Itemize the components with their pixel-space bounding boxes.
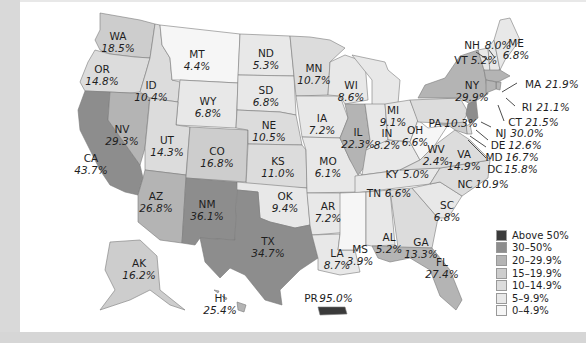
state-RI[interactable]	[496, 82, 501, 90]
svg-text:27.4%: 27.4%	[425, 268, 458, 280]
label-MA: MA21.9%	[525, 78, 579, 90]
svg-text:MT: MT	[189, 48, 205, 60]
svg-text:KS: KS	[271, 155, 285, 167]
label-NJ: NJ30.0%	[496, 127, 544, 139]
svg-text:OR: OR	[94, 63, 110, 75]
svg-text:6.8%: 6.8%	[195, 107, 222, 119]
svg-text:14.8%: 14.8%	[85, 75, 118, 87]
svg-text:GA: GA	[413, 236, 429, 248]
label-RI: RI21.1%	[522, 101, 570, 113]
svg-text:NE: NE	[262, 119, 277, 131]
svg-text:MA: MA	[525, 78, 542, 90]
svg-text:NM: NM	[199, 198, 216, 210]
svg-text:29.9%: 29.9%	[455, 91, 488, 103]
label-HI: HI25.4%	[203, 292, 236, 316]
svg-text:5.2%: 5.2%	[471, 54, 498, 66]
svg-text:ME: ME	[508, 37, 524, 49]
svg-text:NY: NY	[465, 79, 480, 91]
svg-text:8.6%: 8.6%	[338, 91, 365, 103]
legend-swatch	[496, 268, 507, 279]
svg-text:29.3%: 29.3%	[105, 135, 138, 147]
svg-text:30.0%: 30.0%	[510, 127, 543, 139]
svg-text:MO: MO	[319, 155, 336, 167]
legend-label: 30–50%	[512, 242, 552, 253]
svg-text:MN: MN	[306, 62, 323, 74]
svg-text:10.9%: 10.9%	[475, 178, 508, 190]
svg-text:OH: OH	[407, 124, 423, 136]
svg-text:WV: WV	[427, 143, 445, 155]
svg-text:6.8%: 6.8%	[253, 96, 280, 108]
svg-text:FL: FL	[436, 256, 448, 268]
svg-text:43.7%: 43.7%	[74, 164, 107, 176]
legend-item-5-9: 5–9.9%	[496, 292, 569, 305]
legend-label: 15–19.9%	[512, 268, 562, 279]
svg-text:DC: DC	[487, 163, 502, 175]
svg-text:NH: NH	[464, 39, 480, 51]
svg-text:15.8%: 15.8%	[504, 163, 537, 175]
svg-text:VA: VA	[457, 148, 472, 160]
svg-text:AR: AR	[321, 200, 335, 212]
legend-item-0-4: 0–4.9%	[496, 305, 569, 318]
label-MD: MD16.7%	[485, 151, 538, 163]
legend-swatch	[496, 230, 507, 241]
svg-text:DE: DE	[491, 139, 506, 151]
legend-label: 10–14.9%	[512, 280, 562, 291]
svg-text:AL: AL	[382, 231, 395, 243]
svg-text:6.6%: 6.6%	[402, 136, 429, 148]
svg-text:36.1%: 36.1%	[190, 210, 223, 222]
svg-text:RI: RI	[522, 101, 532, 113]
legend-item-10-14: 10–14.9%	[496, 279, 569, 292]
svg-text:SC: SC	[440, 199, 454, 211]
svg-text:5.0%: 5.0%	[403, 168, 430, 180]
svg-text:13.3%: 13.3%	[404, 248, 437, 260]
svg-text:MS: MS	[352, 243, 368, 255]
svg-text:26.8%: 26.8%	[139, 202, 172, 214]
legend: Above 50% 30–50% 20–29.9% 15–19.9% 10–14…	[496, 229, 569, 317]
svg-text:TX: TX	[260, 235, 275, 247]
svg-text:NV: NV	[114, 123, 130, 135]
svg-text:OK: OK	[277, 190, 293, 202]
legend-swatch	[496, 293, 507, 304]
svg-text:IN: IN	[382, 127, 393, 139]
svg-text:16.7%: 16.7%	[505, 151, 538, 163]
svg-text:10.7%: 10.7%	[297, 74, 330, 86]
label-NC: NC10.9%	[457, 178, 508, 190]
svg-text:21.9%: 21.9%	[545, 78, 578, 90]
svg-text:7.2%: 7.2%	[315, 212, 342, 224]
svg-text:CA: CA	[84, 152, 99, 164]
svg-text:UT: UT	[160, 134, 175, 146]
svg-text:10.5%: 10.5%	[252, 131, 285, 143]
legend-item-30-50: 30–50%	[496, 242, 569, 255]
svg-text:16.2%: 16.2%	[122, 269, 155, 281]
svg-text:6.6%: 6.6%	[385, 187, 412, 199]
legend-swatch	[496, 305, 507, 316]
svg-text:NC: NC	[457, 178, 472, 190]
svg-text:3.9%: 3.9%	[347, 255, 374, 267]
svg-text:14.9%: 14.9%	[447, 160, 480, 172]
legend-item-above-50: Above 50%	[496, 229, 569, 242]
svg-text:21.1%: 21.1%	[536, 101, 569, 113]
label-DE: DE12.6%	[491, 139, 542, 151]
svg-text:11.0%: 11.0%	[261, 167, 294, 179]
legend-label: Above 50%	[512, 230, 569, 241]
svg-text:VT: VT	[454, 54, 468, 66]
legend-item-20-29: 20–29.9%	[496, 254, 569, 267]
legend-label: 5–9.9%	[512, 293, 549, 304]
label-TN: TN6.6%	[366, 187, 411, 199]
svg-text:WY: WY	[200, 95, 217, 107]
legend-label: 20–29.9%	[512, 255, 562, 266]
svg-text:MD: MD	[485, 151, 502, 163]
svg-text:ND: ND	[258, 47, 274, 59]
svg-text:9.4%: 9.4%	[272, 202, 299, 214]
svg-text:MI: MI	[387, 104, 399, 116]
svg-text:2.4%: 2.4%	[423, 155, 450, 167]
svg-text:WA: WA	[110, 30, 128, 42]
svg-text:NJ: NJ	[496, 127, 507, 139]
territory-PR[interactable]	[318, 307, 347, 315]
svg-text:LA: LA	[330, 247, 344, 259]
svg-text:SD: SD	[259, 84, 274, 96]
svg-text:AZ: AZ	[149, 190, 163, 202]
label-PR: PR95.0%	[304, 292, 353, 304]
state-MS[interactable]	[338, 192, 366, 250]
svg-text:PR: PR	[304, 292, 318, 304]
